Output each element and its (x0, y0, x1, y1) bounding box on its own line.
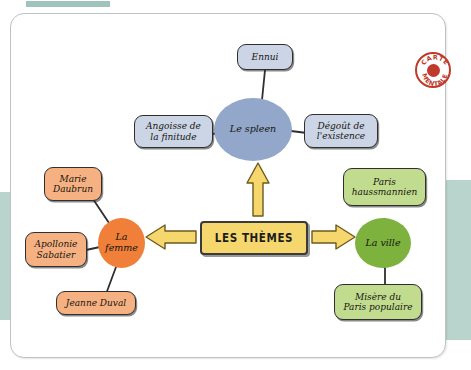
leaf-angoisse-finitude[interactable]: Angoisse dela finitude (134, 115, 213, 148)
leaf-jeanne-duval[interactable]: Jeanne Duval (56, 291, 136, 315)
central-theme-label: LES THÈMES (215, 231, 293, 245)
hub-la-ville[interactable]: La ville (355, 218, 411, 268)
hub-le-spleen-label: Le spleen (230, 124, 276, 135)
mindmap-canvas: LES THÈMES Le spleen Ennui Angoisse dela… (0, 0, 471, 370)
leaf-apollonie-sabatier-label: ApollonieSabatier (35, 239, 78, 259)
leaf-degout-existence[interactable]: Dégoût del'existence (304, 114, 378, 148)
central-theme-box[interactable]: LES THÈMES (200, 221, 308, 255)
leaf-misere-paris-populaire-label: Misère duParis populaire (343, 292, 412, 312)
decor-teal-bar-top (26, 1, 110, 7)
leaf-paris-haussmannien-label: Parishaussmannien (352, 177, 418, 197)
carte-mentale-stamp: CARTE MENTALE (415, 52, 451, 88)
leaf-ennui-label: Ennui (252, 52, 279, 62)
leaf-ennui[interactable]: Ennui (237, 44, 293, 70)
leaf-jeanne-duval-label: Jeanne Duval (66, 298, 126, 308)
stamp-bottom-text: MENTALE (420, 72, 449, 88)
leaf-marie-daubrun-label: MarieDaubrun (53, 174, 93, 194)
hub-le-spleen[interactable]: Le spleen (214, 98, 292, 161)
stamp-top-text: CARTE (420, 54, 451, 67)
stamp-text-ring: CARTE MENTALE (417, 54, 453, 90)
leaf-apollonie-sabatier[interactable]: ApollonieSabatier (25, 232, 87, 267)
hub-la-ville-label: La ville (365, 238, 400, 249)
leaf-angoisse-finitude-label: Angoisse dela finitude (146, 121, 201, 141)
leaf-degout-existence-label: Dégoût del'existence (317, 121, 365, 141)
hub-la-femme-label: Lafemme (105, 232, 138, 253)
hub-la-femme[interactable]: Lafemme (98, 218, 145, 268)
leaf-paris-haussmannien[interactable]: Parishaussmannien (343, 168, 426, 206)
leaf-marie-daubrun[interactable]: MarieDaubrun (44, 167, 102, 201)
leaf-misere-paris-populaire[interactable]: Misère duParis populaire (334, 284, 422, 320)
